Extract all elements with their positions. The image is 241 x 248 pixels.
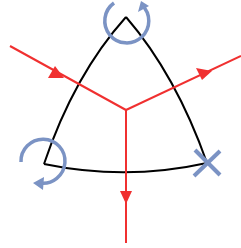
vertex-markers — [21, 1, 220, 190]
diagram-canvas — [0, 0, 241, 248]
outgoing-right-ray — [126, 56, 241, 110]
rotation-arrow-icon-bottom-left — [21, 139, 65, 183]
ray-paths — [10, 46, 241, 243]
incoming-ray — [10, 46, 126, 110]
cross-icon — [194, 150, 220, 176]
outgoing-down-arrow-icon — [120, 191, 132, 204]
rotation-arrowhead-bottom-left — [33, 177, 44, 190]
